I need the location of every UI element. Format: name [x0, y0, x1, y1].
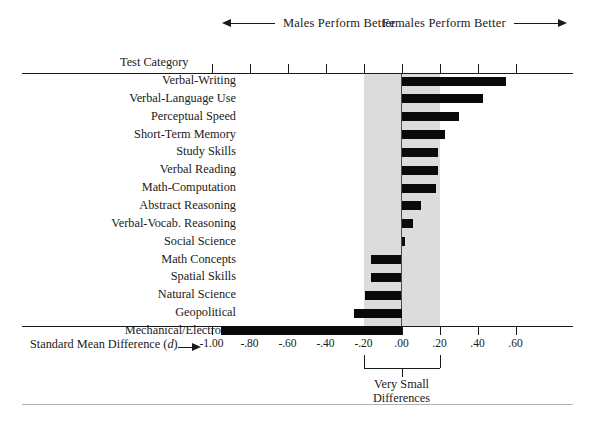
- brace-line-1: Very Small: [342, 377, 462, 391]
- very-small-differences-label: Very Small Differences: [342, 377, 462, 405]
- very-small-differences-brace: [0, 0, 596, 422]
- brace-line-2: Differences: [342, 391, 462, 405]
- figure-chart-gender-differences: Males Perform Better Females Perform Bet…: [0, 0, 596, 422]
- bottom-divider-rule: [22, 404, 573, 405]
